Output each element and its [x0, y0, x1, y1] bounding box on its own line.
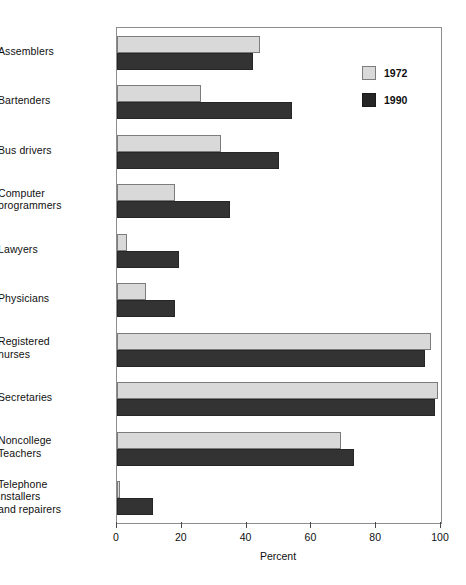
bar: [117, 300, 175, 317]
x-axis-tick: [181, 522, 182, 528]
bar: [117, 85, 201, 102]
category-label-line: Physicians: [0, 292, 102, 305]
legend-swatch-icon: [362, 66, 376, 80]
bar: [117, 350, 425, 367]
category-label: Bus drivers: [0, 144, 102, 157]
category-label: Computerprogrammers: [0, 187, 102, 212]
category-label-line: Teachers: [0, 447, 102, 460]
x-axis-tick: [116, 522, 117, 528]
category-label: NoncollegeTeachers: [0, 434, 102, 459]
category-label: Assemblers: [0, 45, 102, 58]
legend-item: 1990: [362, 90, 432, 110]
category-label: Secretaries: [0, 391, 102, 404]
x-axis-tick-label: 40: [240, 531, 252, 543]
bar: [117, 432, 341, 449]
x-axis-tick: [310, 522, 311, 528]
legend-swatch-icon: [362, 93, 376, 107]
category-label: Telephoneinstallersand repairers: [0, 478, 102, 516]
category-label-line: Bartenders: [0, 94, 102, 107]
x-axis-tick-label: 80: [369, 531, 381, 543]
category-label-line: Bus drivers: [0, 144, 102, 157]
category-label: Physicians: [0, 292, 102, 305]
x-axis: 020406080100: [116, 522, 440, 523]
category-label-line: nurses: [0, 348, 102, 361]
category-label-line: Computer: [0, 187, 102, 200]
x-axis-tick-label: 100: [431, 531, 449, 543]
category-label-line: Registered: [0, 335, 102, 348]
category-label-line: and repairers: [0, 503, 102, 516]
bar: [117, 201, 230, 218]
category-label: Registerednurses: [0, 335, 102, 360]
bar: [117, 53, 253, 70]
category-label-line: installers: [0, 490, 102, 503]
category-label-line: Assemblers: [0, 45, 102, 58]
legend-label: 1990: [384, 94, 407, 106]
category-label: Bartenders: [0, 94, 102, 107]
chart-legend: 19721990: [362, 63, 432, 117]
category-label-line: Lawyers: [0, 243, 102, 256]
bar: [117, 449, 354, 466]
bar: [117, 184, 175, 201]
x-axis-tick: [440, 522, 441, 528]
bar: [117, 481, 120, 498]
category-label-line: Telephone: [0, 478, 102, 491]
x-axis-tick-label: 20: [175, 531, 187, 543]
x-axis-tick: [246, 522, 247, 528]
legend-item: 1972: [362, 63, 432, 83]
x-axis-title: Percent: [116, 550, 440, 562]
category-axis-labels: AssemblersBartendersBus driversComputerp…: [0, 27, 110, 522]
category-label-line: programmers: [0, 199, 102, 212]
bar: [117, 498, 153, 515]
chart-container: AssemblersBartendersBus driversComputerp…: [0, 0, 466, 585]
x-axis-tick-label: 60: [305, 531, 317, 543]
bar: [117, 234, 127, 251]
bar: [117, 135, 221, 152]
category-label-line: Noncollege: [0, 434, 102, 447]
bar: [117, 399, 435, 416]
x-axis-tick: [375, 522, 376, 528]
category-label: Lawyers: [0, 243, 102, 256]
legend-label: 1972: [384, 67, 407, 79]
bar: [117, 333, 431, 350]
bar: [117, 152, 279, 169]
bar: [117, 102, 292, 119]
x-axis-tick-label: 0: [113, 531, 119, 543]
bar: [117, 382, 438, 399]
bar: [117, 283, 146, 300]
bar: [117, 251, 179, 268]
bar: [117, 36, 260, 53]
category-label-line: Secretaries: [0, 391, 102, 404]
